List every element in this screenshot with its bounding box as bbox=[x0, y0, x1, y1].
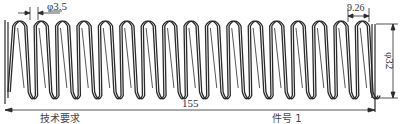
coil-back-line bbox=[296, 28, 302, 88]
coil-back-line bbox=[168, 28, 174, 88]
coil-back-line bbox=[18, 28, 24, 88]
coil-back-line bbox=[125, 28, 131, 88]
coil-back-line bbox=[210, 28, 216, 88]
wire-diameter-label: φ3.5 bbox=[47, 1, 67, 12]
free-length-label: 155 bbox=[182, 98, 199, 109]
right-end-coil bbox=[372, 24, 375, 112]
coil-back-line bbox=[103, 28, 109, 88]
coil-back-line bbox=[39, 28, 45, 88]
spring-drawing bbox=[0, 0, 401, 124]
coil-back-line bbox=[82, 28, 88, 88]
technical-requirements-heading: 技术要求 bbox=[40, 114, 80, 124]
part-number-label: 件号 1 bbox=[272, 114, 302, 124]
outer-diameter-label: φ32 bbox=[384, 52, 395, 69]
coil-back-line bbox=[189, 28, 195, 88]
coil-back-line bbox=[360, 28, 366, 88]
left-end-coil bbox=[5, 20, 8, 104]
coil-back-line bbox=[317, 28, 323, 88]
pitch-label: 9.26 bbox=[347, 3, 365, 13]
coil-back-line bbox=[275, 28, 281, 88]
coil-back-line bbox=[339, 28, 345, 88]
coil-back-line bbox=[146, 28, 152, 88]
coil-back-line bbox=[232, 28, 238, 88]
coil-back-line bbox=[60, 28, 66, 88]
spring-coils bbox=[8, 21, 380, 99]
coil-back-line bbox=[253, 28, 259, 88]
